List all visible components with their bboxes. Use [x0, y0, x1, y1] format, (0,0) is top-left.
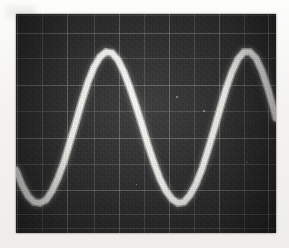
waveform-trace	[16, 14, 276, 233]
crt-screen	[16, 14, 276, 233]
oscilloscope-photo	[0, 0, 289, 248]
